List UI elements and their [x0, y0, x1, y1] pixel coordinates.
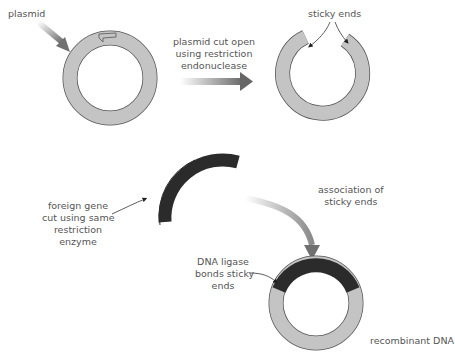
label-line: enzyme	[42, 236, 114, 248]
plasmid-ring	[70, 33, 150, 118]
label-line: using restriction	[168, 48, 260, 60]
foreign-gene-fragment	[159, 160, 238, 225]
label-line: foreign gene	[42, 200, 114, 212]
label-line: endonuclease	[168, 60, 260, 72]
label-line: sticky ends	[318, 196, 384, 208]
sticky-end-pointers	[310, 22, 347, 46]
label-association: association of sticky ends	[318, 184, 384, 208]
label-line: plasmid cut open	[168, 36, 260, 48]
label-line: restriction	[42, 224, 114, 236]
plasmid-pointer-arrow	[38, 22, 70, 52]
label-line: cut using same	[42, 212, 114, 224]
recombinant-dna-ring	[276, 263, 356, 343]
label-ligase: DNA ligase bonds sticky ends	[195, 256, 251, 292]
cut-plasmid-ring	[283, 37, 363, 113]
label-line: bonds sticky	[195, 268, 251, 280]
label-line: DNA ligase	[195, 256, 251, 268]
label-line: association of	[318, 184, 384, 196]
foreign-gene-pointer	[112, 199, 145, 214]
association-arrow	[245, 152, 320, 260]
label-line: ends	[195, 280, 251, 292]
label-sticky-ends: sticky ends	[308, 8, 361, 20]
label-foreign-gene: foreign gene cut using same restriction …	[42, 200, 114, 248]
label-recombinant: recombinant DNA	[370, 335, 454, 347]
label-cut-open: plasmid cut open using restriction endon…	[168, 36, 260, 72]
label-plasmid: plasmid	[8, 8, 45, 20]
cut-arrow	[180, 72, 253, 91]
